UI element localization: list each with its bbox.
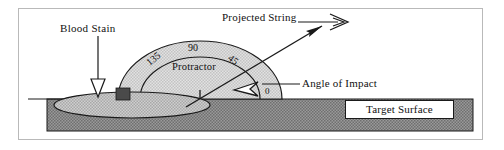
label-angle-of-impact: Angle of Impact [302, 78, 377, 89]
label-blood-stain: Blood Stain [60, 23, 116, 34]
target-surface-callout: Target Surface [345, 100, 454, 119]
label-target-surface: Target Surface [366, 104, 433, 115]
label-protractor: Protractor [172, 62, 216, 73]
label-projected-string: Projected String [222, 12, 296, 23]
blood-stain-leader [91, 36, 105, 97]
figure-canvas: Blood Stain Projected String Angle of Im… [0, 0, 504, 150]
projected-string-leader [298, 14, 348, 30]
protractor-tick-90: 90 [188, 43, 198, 53]
protractor-tick-0: 0 [265, 87, 270, 96]
